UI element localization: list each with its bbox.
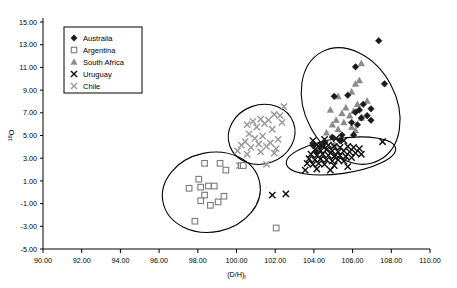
y-tick-label: 11.00 (20, 63, 37, 72)
y-tick-label: -1.00 (21, 199, 37, 208)
x-tick-label: 98.00 (189, 256, 207, 265)
marker-square (206, 183, 212, 189)
x-tick-label: 102.00 (264, 256, 286, 265)
y-tick-label: 9.00 (23, 86, 37, 95)
marker-triangle (323, 129, 330, 135)
x-tick-label: 96.00 (150, 256, 168, 265)
y-tick-label: 7.00 (23, 108, 37, 117)
marker-diamond (375, 37, 382, 44)
marker-square (192, 218, 198, 224)
marker-square (202, 192, 208, 198)
y-tick-label: 5.00 (23, 131, 37, 140)
marker-diamond (368, 117, 375, 124)
x-tick-label: 92.00 (73, 256, 91, 265)
marker-triangle (339, 110, 346, 116)
legend-item-label: Chile (83, 82, 100, 91)
marker-square (196, 176, 202, 182)
x-tick-label: 94.00 (111, 256, 129, 265)
marker-triangle (358, 60, 365, 66)
x-tick-label: 100.00 (226, 256, 248, 265)
marker-square (186, 185, 192, 191)
marker-triangle (341, 119, 348, 125)
y-tick-label: 13.00 (19, 40, 37, 49)
y-tick-label: -3.00 (21, 222, 37, 231)
marker-diamond (352, 64, 359, 71)
x-tick-label: 110.00 (419, 256, 440, 265)
marker-square (71, 47, 76, 52)
marker-square (240, 163, 246, 169)
marker-square (223, 167, 229, 173)
plot-area: 15.0013.0011.009.007.005.003.001.00-1.00… (0, 0, 457, 288)
marker-square (198, 184, 204, 190)
y-tick-label: -5.00 (21, 245, 37, 254)
marker-triangle (333, 117, 340, 123)
x-tick-label: 106.00 (342, 256, 364, 265)
y-tick-label: 1.00 (23, 177, 37, 186)
series-uruguay (269, 135, 386, 198)
x-tick-label: 104.00 (303, 256, 325, 265)
argentina-ellipse (155, 143, 268, 241)
legend-item-label: Uruguay (83, 70, 112, 79)
marker-diamond (368, 106, 375, 113)
x-axis-title: (D/H)I (227, 270, 246, 280)
marker-square (273, 225, 279, 231)
marker-square (217, 161, 223, 167)
marker-square (211, 183, 217, 189)
marker-triangle (335, 126, 342, 132)
marker-triangle (327, 106, 334, 112)
marker-triangle (343, 104, 350, 110)
marker-diamond (381, 81, 388, 88)
y-tick-label: 3.00 (23, 154, 37, 163)
legend-item-label: Australia (83, 34, 113, 43)
marker-square (198, 198, 204, 204)
legend-item-label: South Africa (83, 58, 125, 67)
x-tick-label: 108.00 (380, 256, 402, 265)
marker-square (202, 161, 208, 167)
scatter-chart: 15.0013.0011.009.007.005.003.001.00-1.00… (0, 0, 457, 288)
marker-triangle (356, 77, 363, 83)
legend-item-label: Argentina (83, 46, 116, 55)
x-tick-label: 90.00 (34, 256, 52, 265)
y-tick-label: 15.00 (19, 18, 37, 27)
y-axis-title: 18O (7, 129, 16, 141)
series-argentina (186, 161, 279, 231)
marker-square (215, 199, 221, 205)
marker-triangle (354, 101, 361, 107)
marker-square (221, 193, 227, 199)
marker-square (208, 202, 214, 208)
